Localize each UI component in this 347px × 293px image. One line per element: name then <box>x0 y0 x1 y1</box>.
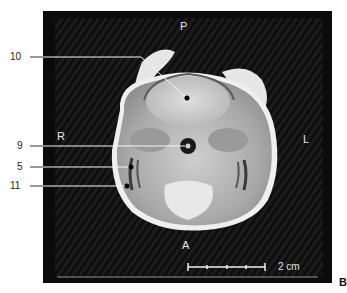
brain-region <box>146 76 230 126</box>
callout-label-9: 9 <box>17 141 23 151</box>
scale-bar-label: 2 cm <box>278 262 300 272</box>
orientation-left: R <box>57 131 65 142</box>
panel-letter: B <box>339 276 347 288</box>
callout-dot-10 <box>185 96 190 101</box>
orientation-bottom: A <box>182 240 189 251</box>
orientation-right: L <box>303 134 309 145</box>
callout-label-10: 10 <box>10 52 21 62</box>
orientation-top: P <box>180 21 187 32</box>
callout-dot-11 <box>125 184 130 189</box>
callout-label-5: 5 <box>17 162 23 172</box>
callout-dot-5 <box>129 165 134 170</box>
callout-label-11: 11 <box>10 181 20 191</box>
